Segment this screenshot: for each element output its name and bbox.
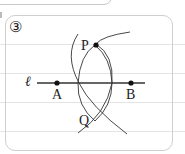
point-a [54,80,59,85]
point-p [93,42,98,47]
line-label-l: ℓ [25,75,31,89]
label-b: B [126,88,135,102]
label-q: Q [79,114,89,128]
label-p: P [81,39,89,53]
label-a: A [52,88,62,102]
point-b [128,80,133,85]
